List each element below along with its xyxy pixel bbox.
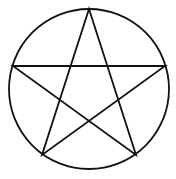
canvas-background xyxy=(0,0,176,179)
pentagram-figure: Five-pointed star drawn as one continuou… xyxy=(0,0,176,179)
pentagram-canvas xyxy=(0,0,176,179)
